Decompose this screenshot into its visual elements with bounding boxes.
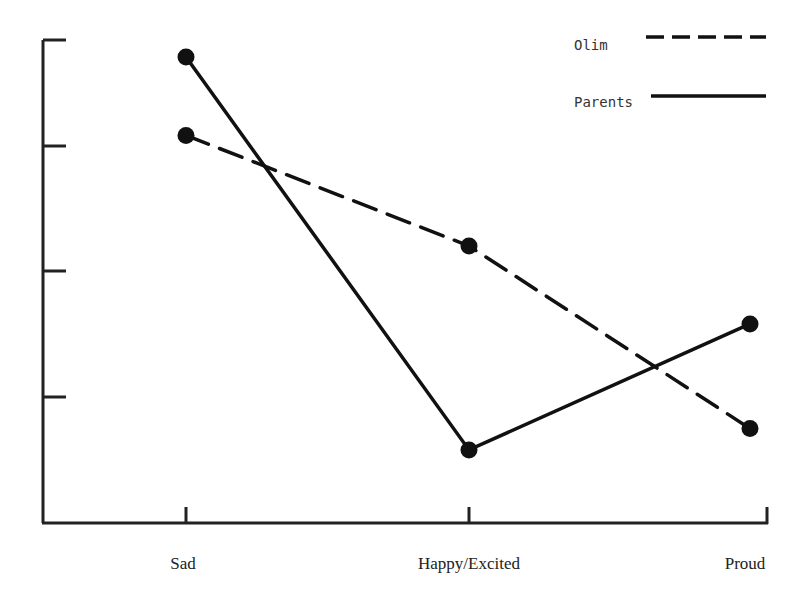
- axes: [42, 40, 768, 524]
- series-group: [178, 48, 759, 458]
- x-label-sad: Sad: [170, 554, 196, 573]
- x-ticks: [186, 507, 469, 523]
- x-label-happy-excited: Happy/Excited: [418, 554, 520, 573]
- line-chart: Sad Happy/Excited Proud Olim Parents: [0, 0, 809, 612]
- y-ticks: [43, 40, 66, 397]
- data-point-olim-0: [178, 127, 195, 144]
- series-line-olim: [186, 135, 750, 428]
- data-point-olim-2: [742, 420, 759, 437]
- legend-label-olim: Olim: [574, 37, 608, 53]
- data-point-parents-2: [742, 315, 759, 332]
- data-point-parents-0: [178, 48, 195, 65]
- data-point-parents-1: [461, 441, 478, 458]
- legend-label-parents: Parents: [574, 94, 633, 110]
- legend: Olim Parents: [574, 37, 766, 110]
- x-tick-labels: Sad Happy/Excited Proud: [170, 554, 766, 573]
- x-label-proud: Proud: [725, 554, 766, 573]
- data-point-olim-1: [461, 238, 478, 255]
